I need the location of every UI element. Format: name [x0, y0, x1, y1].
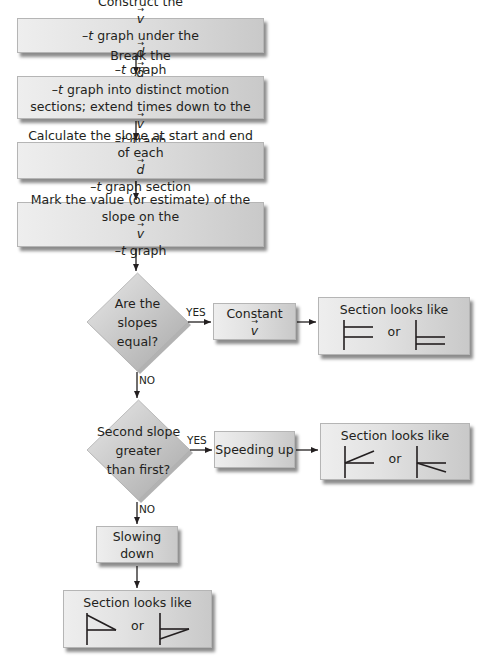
section-title: Section looks like	[83, 595, 191, 610]
yes-label: YES	[187, 434, 207, 446]
graph-horizontal-positive-icon	[342, 319, 374, 351]
step-text-line1: Calculate the slope at start and end	[28, 127, 253, 144]
step-text-line2: slope on the v–t graph	[102, 208, 179, 259]
graph-falling-negative-icon	[415, 445, 447, 479]
decision-second-slope-greater: Second slope greater than first?	[87, 400, 190, 500]
no-label: NO	[139, 374, 155, 386]
graph-horizontal-negative-icon	[414, 319, 446, 351]
outcome-label: Slowing down	[97, 528, 177, 562]
section-slowing-down: Section looks like or	[63, 590, 212, 648]
outcome-constant-velocity: Constant v	[213, 303, 296, 340]
velocity-symbol: v	[226, 322, 282, 339]
decision-line: equal?	[117, 332, 158, 351]
decision-line: slopes	[118, 313, 158, 332]
graph-rising-positive-icon	[343, 445, 375, 479]
or-label: or	[389, 450, 402, 467]
or-label: or	[131, 617, 144, 634]
outcome-speeding-up: Speeding up	[214, 431, 295, 468]
or-label: or	[388, 323, 401, 340]
section-title: Section looks like	[341, 428, 449, 443]
step-text-line1: Mark the value (or estimate) of the	[31, 191, 250, 208]
outcome-label: Speeding up	[215, 441, 293, 458]
section-title: Section looks like	[340, 302, 448, 317]
graph-falling-positive-icon	[85, 612, 117, 646]
graph-rising-negative-icon	[158, 612, 190, 646]
yes-label: YES	[186, 306, 206, 318]
outcome-slowing-down: Slowing down	[96, 526, 178, 563]
step-text-line1: Break the d–t graph into distinct motion	[52, 47, 229, 98]
decision-line: Second slope	[97, 422, 180, 441]
no-label: NO	[139, 503, 155, 515]
step-break-dt-graph: Break the d–t graph into distinct motion…	[17, 76, 264, 119]
decision-line: than first?	[107, 460, 170, 479]
step-mark-slope-value: Mark the value (or estimate) of the slop…	[17, 202, 264, 247]
section-speeding-up: Section looks like or	[320, 423, 470, 480]
step-text-line2: of each d–t graph section	[90, 144, 191, 195]
step-calculate-slope: Calculate the slope at start and end of …	[17, 142, 264, 179]
decision-line: greater	[116, 441, 162, 460]
decision-slopes-equal: Are the slopes equal?	[87, 273, 188, 371]
section-constant-velocity: Section looks like or	[318, 297, 470, 355]
decision-line: Are the	[115, 294, 161, 313]
